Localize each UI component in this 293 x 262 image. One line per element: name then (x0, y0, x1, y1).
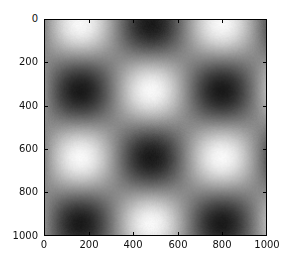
xtick-label-600: 600 (158, 240, 198, 250)
xtick-mark (222, 232, 223, 236)
xtick-label-0: 0 (24, 240, 64, 250)
ytick-label-600: 600 (4, 144, 38, 154)
ytick-mark (44, 62, 48, 63)
xtick-label-1000: 1000 (247, 240, 287, 250)
xtick-label-800: 800 (202, 240, 242, 250)
xtick-mark (222, 19, 223, 23)
xtick-mark (178, 232, 179, 236)
ytick-label-400: 400 (4, 101, 38, 111)
xtick-mark (133, 232, 134, 236)
xtick-label-200: 200 (69, 240, 109, 250)
ytick-mark (263, 62, 267, 63)
xtick-label-400: 400 (113, 240, 153, 250)
ytick-mark (263, 106, 267, 107)
xtick-mark (89, 232, 90, 236)
ytick-mark (44, 192, 48, 193)
ytick-mark (44, 106, 48, 107)
xtick-mark (178, 19, 179, 23)
ytick-mark (263, 149, 267, 150)
heatmap-plot-area (44, 19, 267, 236)
ytick-mark (44, 149, 48, 150)
xtick-mark (133, 19, 134, 23)
heatmap-image (45, 20, 266, 235)
xtick-mark (89, 19, 90, 23)
ytick-label-800: 800 (4, 187, 38, 197)
figure: 0 200 400 600 800 1000 0 200 400 600 800… (0, 0, 293, 262)
ytick-label-0: 0 (4, 14, 38, 24)
ytick-mark (263, 192, 267, 193)
ytick-label-200: 200 (4, 57, 38, 67)
